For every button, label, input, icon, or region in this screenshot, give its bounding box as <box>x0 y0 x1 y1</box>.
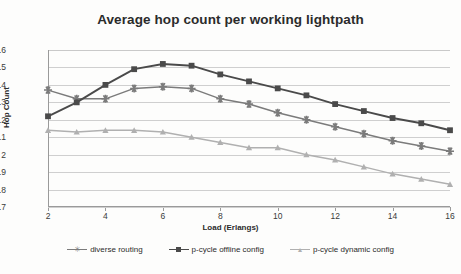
x-tick-label: 14 <box>378 211 408 221</box>
data-point-marker <box>45 113 51 119</box>
legend-item[interactable]: p-cycle offline config <box>169 245 264 254</box>
data-point-marker <box>217 72 223 78</box>
y-tick-label: 2 <box>0 150 6 160</box>
data-point-marker <box>274 109 282 117</box>
data-point-marker <box>361 108 367 114</box>
chart-legend: ✳diverse routingp-cycle offline config▴p… <box>0 245 461 254</box>
gridline <box>48 207 450 208</box>
x-tick-label: 10 <box>263 211 293 221</box>
series-p-cycle-dynamic-config <box>45 127 453 187</box>
data-point-marker <box>418 120 424 126</box>
data-point-marker <box>360 130 368 138</box>
y-tick-label: 2.4 <box>0 80 6 90</box>
data-point-marker <box>131 66 137 72</box>
data-point-marker <box>389 137 397 145</box>
data-point-marker <box>101 95 109 103</box>
x-tick-label: 2 <box>33 211 63 221</box>
plot-area <box>48 50 450 207</box>
y-tick-label: 2.1 <box>0 132 6 142</box>
x-axis-title: Load (Erlangs) <box>0 223 461 232</box>
legend-item[interactable]: ▴p-cycle dynamic config <box>290 245 394 254</box>
series-layer <box>48 50 450 207</box>
legend-swatch-star-icon: ✳ <box>67 246 87 254</box>
legend-label: p-cycle offline config <box>192 245 264 254</box>
data-point-marker <box>245 100 253 108</box>
data-point-marker <box>332 101 338 107</box>
y-tick-label: 2.3 <box>0 97 6 107</box>
y-tick-label: 2.5 <box>0 62 6 72</box>
y-tick-label: 1.8 <box>0 185 6 195</box>
data-point-marker <box>304 92 310 98</box>
x-tick-label: 16 <box>435 211 461 221</box>
legend-swatch-triangle-icon: ▴ <box>290 246 310 254</box>
data-point-marker <box>246 79 252 85</box>
data-point-marker <box>74 99 80 105</box>
data-point-marker <box>447 127 453 133</box>
x-tick-label: 6 <box>148 211 178 221</box>
y-tick-label: 2.6 <box>0 45 6 55</box>
x-tick-label: 4 <box>90 211 120 221</box>
data-point-marker <box>188 84 196 92</box>
x-tick-label: 8 <box>205 211 235 221</box>
data-point-marker <box>275 85 281 91</box>
data-point-marker <box>103 82 109 88</box>
legend-label: diverse routing <box>90 245 142 254</box>
legend-label: p-cycle dynamic config <box>313 245 394 254</box>
x-tick-label: 12 <box>320 211 350 221</box>
data-point-marker <box>216 95 224 103</box>
data-point-marker <box>189 63 195 69</box>
y-tick-label: 1.9 <box>0 167 6 177</box>
data-point-marker <box>417 142 425 150</box>
y-tick-label: 1.7 <box>0 202 6 212</box>
data-point-marker <box>302 116 310 124</box>
data-point-marker <box>390 115 396 121</box>
data-point-marker <box>331 123 339 131</box>
data-point-marker <box>159 83 167 91</box>
data-point-marker <box>446 147 454 155</box>
chart-title: Average hop count per working lightpath <box>0 12 461 27</box>
y-tick-label: 2.2 <box>0 115 6 125</box>
data-point-marker <box>130 84 138 92</box>
x-tick-mark <box>450 207 451 211</box>
legend-swatch-square-icon <box>169 246 189 254</box>
legend-item[interactable]: ✳diverse routing <box>67 245 142 254</box>
data-point-marker <box>160 61 166 67</box>
data-point-marker <box>44 86 52 94</box>
chart-container: Average hop count per working lightpath … <box>0 0 461 274</box>
